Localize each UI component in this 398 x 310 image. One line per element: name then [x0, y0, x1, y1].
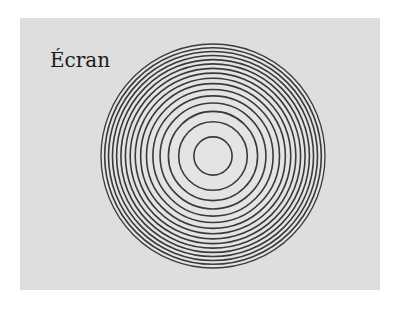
newton-rings [0, 0, 398, 310]
